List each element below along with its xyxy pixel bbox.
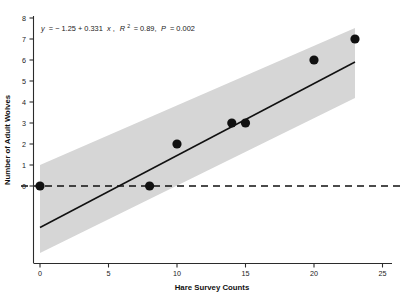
- data-point: [241, 118, 250, 127]
- annot-r-exponent: 2: [127, 23, 130, 29]
- data-point: [227, 118, 236, 127]
- data-point: [145, 181, 154, 190]
- data-point: [35, 181, 44, 190]
- y-axis-tick-labels: 0 1 2 3 4 5 6 7 8: [22, 14, 26, 191]
- annot-y-symbol: y: [40, 24, 46, 33]
- scatter-plot-figure: 0 1 2 3 4 5 6 7 8 0 5 10 15 20 25 Hare S…: [0, 0, 406, 299]
- y-tick-label: 0: [22, 182, 26, 191]
- annot-p-symbol: P: [161, 24, 166, 33]
- y-tick-label: 2: [22, 140, 26, 149]
- annot-comma: ,: [113, 24, 115, 33]
- y-tick-label: 3: [22, 119, 26, 128]
- y-tick-label: 6: [22, 56, 26, 65]
- y-tick-label: 5: [22, 77, 26, 86]
- x-tick-label: 25: [379, 269, 387, 278]
- data-point: [309, 55, 318, 64]
- x-tick-label: 20: [310, 269, 318, 278]
- annot-r-value: = 0.89,: [134, 24, 157, 33]
- annot-r-symbol: R: [120, 24, 126, 33]
- y-tick-label: 8: [22, 14, 26, 23]
- y-axis-title: Number of Adult Wolves: [3, 94, 12, 185]
- y-tick-label: 4: [22, 98, 26, 107]
- x-tick-label: 0: [38, 269, 42, 278]
- annot-p-value: = 0.002: [170, 24, 195, 33]
- y-tick-label: 7: [22, 35, 26, 44]
- annot-x-symbol: x: [106, 24, 111, 33]
- data-point: [172, 139, 181, 148]
- x-tick-label: 5: [107, 269, 111, 278]
- y-tick-label: 1: [22, 161, 26, 170]
- annot-equation: = − 1.25 + 0.331: [49, 24, 103, 33]
- x-tick-label: 15: [242, 269, 250, 278]
- data-point: [350, 34, 359, 43]
- x-axis-title: Hare Survey Counts: [175, 283, 250, 292]
- x-tick-label: 10: [173, 269, 181, 278]
